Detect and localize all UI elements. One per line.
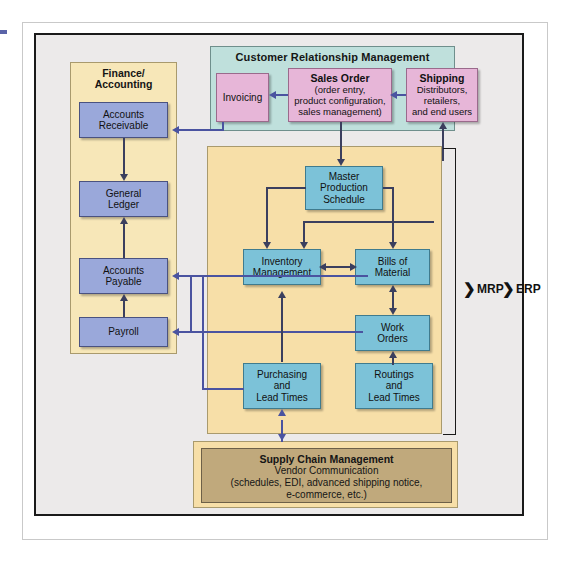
shipping-line1: Distributors, bbox=[417, 84, 468, 95]
arrowhead-purchasing-to-inventory bbox=[278, 291, 286, 298]
routings-line1: Routings bbox=[374, 369, 413, 381]
node-invoicing[interactable]: Invoicing bbox=[216, 73, 269, 122]
routings-line2: and bbox=[386, 380, 403, 392]
conn-ar-to-gl bbox=[123, 138, 125, 174]
routings-line3: Lead Times bbox=[368, 392, 420, 404]
general-ledger-line2: Ledger bbox=[108, 199, 139, 211]
sales-order-title: Sales Order bbox=[311, 73, 370, 85]
conn-purchasing-to-payroll bbox=[178, 331, 363, 333]
mrp-label: MRP bbox=[477, 282, 504, 296]
arrowhead-sales-order-to-invoicing bbox=[269, 91, 276, 99]
finance-region-title: Finance/ Accounting bbox=[71, 68, 176, 90]
arrowhead-wo-to-bom bbox=[389, 285, 397, 292]
region-supply-chain-management: Supply Chain Management Vendor Communica… bbox=[193, 441, 458, 508]
sales-order-line1: (order entry, bbox=[314, 84, 365, 95]
work-orders-line2: Orders bbox=[377, 333, 408, 345]
mrp-tag: ❯ MRP bbox=[463, 281, 504, 296]
arrowhead-to-accounts-payable bbox=[172, 272, 179, 280]
node-general-ledger[interactable]: General Ledger bbox=[79, 181, 168, 217]
conn-sales-order-to-mps bbox=[340, 122, 342, 159]
bom-line2: Material bbox=[375, 267, 411, 279]
arrowhead-mrp-to-shipping bbox=[439, 122, 447, 129]
mps-line3: Schedule bbox=[323, 194, 365, 206]
mrp-chevron-icon: ❯ bbox=[463, 281, 476, 296]
node-bills-of-material[interactable]: Bills of Material bbox=[355, 249, 430, 285]
purchasing-line3: Lead Times bbox=[256, 392, 308, 404]
arrowhead-scm-to-purchasing bbox=[278, 409, 286, 416]
arrowhead-ar-to-gl bbox=[120, 174, 128, 181]
conn-mps-to-bom-v bbox=[392, 187, 394, 242]
left-edge-artifact bbox=[0, 30, 7, 34]
accounts-receivable-line2: Receivable bbox=[99, 120, 148, 132]
node-master-production-schedule[interactable]: Master Production Schedule bbox=[305, 166, 383, 210]
arrowhead-routings-to-work-orders bbox=[389, 351, 397, 358]
mps-line2: Production bbox=[320, 182, 368, 194]
crm-region-title: Customer Relationship Management bbox=[211, 51, 454, 63]
erp-chevron-icon: ❯ bbox=[502, 281, 515, 296]
work-orders-line1: Work bbox=[381, 322, 404, 334]
scm-line3: (schedules, EDI, advanced shipping notic… bbox=[202, 477, 451, 489]
arrowhead-invoicing-to-ar bbox=[172, 126, 179, 134]
conn-purchasing-riser bbox=[202, 275, 204, 389]
shipping-line3: and end users bbox=[412, 106, 472, 117]
arrowhead-to-payroll bbox=[172, 328, 179, 336]
arrowhead-shipping-to-sales-order bbox=[390, 91, 397, 99]
purchasing-line2: and bbox=[274, 380, 291, 392]
general-ledger-line1: General bbox=[106, 188, 142, 200]
accounts-payable-line2: Payable bbox=[105, 276, 141, 288]
arrowhead-inventory-to-bom bbox=[350, 263, 357, 271]
node-accounts-payable[interactable]: Accounts Payable bbox=[79, 258, 168, 294]
conn-wo-ap-riser bbox=[190, 275, 192, 333]
conn-purchasing-to-inventory bbox=[281, 298, 283, 362]
sales-order-line3: sales management) bbox=[298, 106, 381, 117]
shipping-title: Shipping bbox=[420, 73, 465, 85]
scm-title: Supply Chain Management bbox=[202, 453, 451, 465]
node-routings-and-lead-times[interactable]: Routings and Lead Times bbox=[355, 363, 433, 409]
scm-inner-box: Supply Chain Management Vendor Communica… bbox=[201, 448, 452, 503]
arrowhead-bom-to-inventory bbox=[319, 263, 326, 271]
arrowhead-ap-to-gl bbox=[120, 217, 128, 224]
node-payroll[interactable]: Payroll bbox=[79, 317, 168, 347]
conn-payroll-to-ap bbox=[123, 301, 125, 317]
node-work-orders[interactable]: Work Orders bbox=[355, 315, 430, 351]
conn-mps-to-inventory-h bbox=[266, 187, 306, 189]
payroll-label: Payroll bbox=[108, 326, 139, 338]
conn-mrp-feedback-v bbox=[303, 221, 305, 242]
accounts-payable-line1: Accounts bbox=[103, 265, 144, 277]
sales-order-line2: product configuration, bbox=[294, 95, 385, 106]
conn-work-orders-to-ap bbox=[178, 275, 368, 277]
erp-label: ERP bbox=[516, 282, 541, 296]
conn-invoicing-to-ar bbox=[178, 129, 224, 131]
conn-inventory-bom bbox=[324, 266, 352, 268]
conn-purchasing-spur bbox=[202, 388, 244, 390]
finance-title-line2: Accounting bbox=[71, 79, 176, 90]
mps-line1: Master bbox=[329, 171, 360, 183]
inventory-line2: Management bbox=[253, 267, 311, 279]
arrowhead-bom-to-wo bbox=[389, 308, 397, 315]
erp-tag: ❯ ERP bbox=[502, 281, 541, 296]
shipping-line2: retailers, bbox=[424, 95, 460, 106]
conn-mrp-feedback-h bbox=[303, 221, 434, 223]
purchasing-line1: Purchasing bbox=[257, 369, 307, 381]
arrowhead-mps-to-bom bbox=[389, 242, 397, 249]
arrowhead-mrp-feedback bbox=[300, 242, 308, 249]
invoicing-label: Invoicing bbox=[223, 92, 262, 104]
arrowhead-payroll-to-ap bbox=[120, 294, 128, 301]
node-accounts-receivable[interactable]: Accounts Receivable bbox=[79, 102, 168, 138]
bom-line1: Bills of bbox=[378, 256, 407, 268]
node-inventory-management[interactable]: Inventory Management bbox=[243, 249, 321, 285]
diagram-canvas: Customer Relationship Management Invoici… bbox=[0, 0, 570, 562]
conn-sales-order-to-invoicing bbox=[275, 94, 288, 96]
scm-line4: e-commerce, etc.) bbox=[202, 489, 451, 501]
node-purchasing-and-lead-times[interactable]: Purchasing and Lead Times bbox=[243, 363, 321, 409]
inventory-line1: Inventory bbox=[261, 256, 302, 268]
arrowhead-sales-order-to-mps bbox=[337, 159, 345, 166]
node-sales-order[interactable]: Sales Order (order entry, product config… bbox=[288, 68, 392, 122]
accounts-receivable-line1: Accounts bbox=[103, 109, 144, 121]
arrowhead-purchasing-to-scm bbox=[278, 434, 286, 441]
node-shipping[interactable]: Shipping Distributors, retailers, and en… bbox=[406, 68, 478, 122]
arrowhead-mps-to-inventory bbox=[263, 242, 271, 249]
conn-mps-to-inventory-v bbox=[266, 187, 268, 242]
mrp-bracket bbox=[443, 148, 456, 435]
conn-ap-to-gl bbox=[123, 224, 125, 258]
